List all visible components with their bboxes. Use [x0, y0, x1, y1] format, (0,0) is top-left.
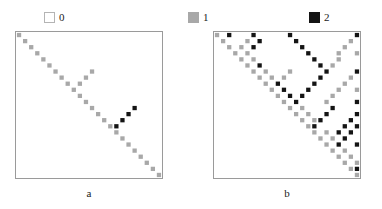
legend-item-2: 2 — [309, 8, 330, 26]
matrix-canvas-b — [214, 32, 360, 178]
matrix-canvas-a — [16, 32, 162, 178]
legend-label-1: 1 — [203, 12, 209, 23]
legend-item-1: 1 — [188, 8, 209, 26]
legend-label-2: 2 — [324, 12, 330, 23]
panel-b: b — [213, 31, 361, 179]
matrix-plot-a — [15, 31, 163, 179]
panel-caption-b: b — [213, 187, 361, 200]
legend-swatch-two-icon — [309, 12, 320, 23]
legend-swatch-one-icon — [188, 12, 199, 23]
panel-caption-a: a — [15, 187, 163, 200]
legend-swatch-zero-icon — [44, 12, 55, 23]
figure-root: 0 1 2 a b — [0, 0, 382, 209]
matrix-plot-b — [213, 31, 361, 179]
legend-label-0: 0 — [59, 12, 65, 23]
panel-a: a — [15, 31, 163, 179]
legend: 0 1 2 — [0, 8, 382, 28]
legend-item-0: 0 — [44, 8, 65, 26]
